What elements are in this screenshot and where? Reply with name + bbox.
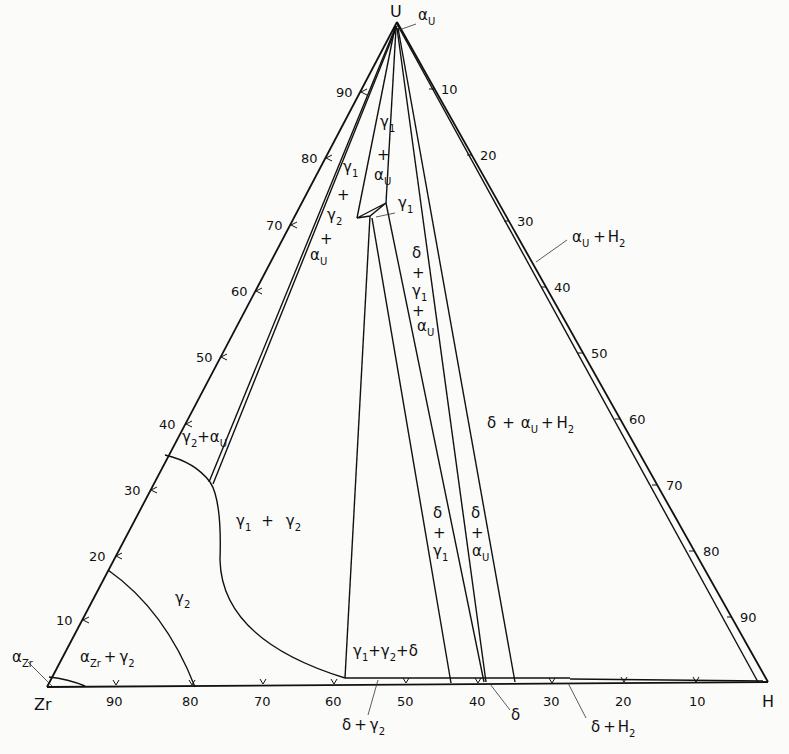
svg-text:αZr: αZr: [12, 648, 34, 669]
ternary-phase-diagram: U Zr H 10 20 30 40 50 60 70 80 90 10 20 …: [0, 0, 789, 754]
svg-text:40: 40: [159, 417, 176, 432]
region-label-gamma2: γ2: [175, 589, 190, 610]
svg-text:αU+H2: αU+H2: [572, 228, 625, 249]
svg-text:40: 40: [554, 280, 571, 295]
left-axis-labels: 10 20 30 40 50 60 70 80 90: [56, 85, 353, 628]
svg-text:80: 80: [182, 694, 199, 709]
svg-text:δ+γ2: δ+γ2: [342, 716, 385, 737]
svg-text:70: 70: [266, 218, 283, 233]
svg-text:αU: αU: [418, 6, 435, 27]
region-label-delta-gamma2: δ+γ2: [342, 716, 385, 737]
region-label-gamma1-gamma2-delta: γ1+γ2+δ: [353, 642, 418, 663]
svg-text:10: 10: [56, 613, 73, 628]
svg-text:70: 70: [254, 694, 271, 709]
svg-text:90: 90: [336, 85, 353, 100]
region-label-delta-h2: δ+H2: [591, 718, 635, 739]
svg-text:αU: αU: [472, 542, 489, 563]
svg-text:50: 50: [591, 346, 608, 361]
svg-text:90: 90: [740, 610, 757, 625]
svg-text:10: 10: [689, 694, 706, 709]
svg-text:40: 40: [469, 694, 486, 709]
svg-text:+: +: [320, 230, 333, 248]
phase-boundaries: [49, 26, 768, 687]
corner-label-zr: Zr: [34, 695, 52, 714]
svg-text:γ2: γ2: [327, 206, 342, 227]
region-label-delta-alphau-h2: δ+αU+H2: [487, 414, 574, 435]
svg-text:80: 80: [703, 544, 720, 559]
triangle-frame: [47, 22, 768, 687]
svg-text:+: +: [412, 264, 425, 282]
region-label-delta-gamma1-alphau: δ + γ1 + αU: [412, 244, 434, 338]
svg-text:70: 70: [666, 478, 683, 493]
svg-text:60: 60: [629, 412, 646, 427]
svg-text:90: 90: [106, 694, 123, 709]
svg-text:20: 20: [480, 148, 497, 163]
region-label-alphau-h2: αU+H2: [572, 228, 625, 249]
right-axis-labels: 10 20 30 40 50 60 70 80 90: [441, 82, 757, 625]
svg-text:δ: δ: [412, 244, 421, 262]
svg-text:+: +: [337, 186, 350, 204]
svg-text:γ1: γ1: [412, 282, 427, 303]
region-label-alpha-u-top: αU: [418, 6, 435, 27]
svg-text:30: 30: [124, 483, 141, 498]
svg-text:20: 20: [89, 549, 106, 564]
svg-text:30: 30: [517, 214, 534, 229]
svg-text:γ2: γ2: [175, 589, 190, 610]
svg-text:αZr+γ2: αZr+γ2: [80, 648, 135, 669]
svg-text:δ+H2: δ+H2: [591, 718, 635, 739]
region-label-delta-gamma1: δ + γ1: [433, 504, 448, 563]
svg-text:γ1+γ2+δ: γ1+γ2+δ: [353, 642, 418, 663]
region-label-gamma1-alphau: γ1 + αU: [374, 113, 395, 187]
svg-text:20: 20: [615, 694, 632, 709]
svg-text:αU: αU: [417, 317, 434, 338]
svg-text:80: 80: [301, 151, 318, 166]
svg-text:50: 50: [397, 694, 414, 709]
svg-text:60: 60: [231, 284, 248, 299]
region-label-delta-alphau: δ + αU: [471, 504, 489, 563]
region-label-alphazr-gamma2: αZr+γ2: [80, 648, 135, 669]
svg-text:αU: αU: [310, 246, 327, 267]
svg-text:30: 30: [543, 694, 560, 709]
svg-text:δ+αU+H2: δ+αU+H2: [487, 414, 574, 435]
svg-text:γ1: γ1: [380, 113, 395, 134]
svg-text:δ: δ: [433, 504, 442, 522]
region-label-alpha-zr: αZr: [12, 648, 34, 669]
corner-label-h: H: [762, 692, 774, 711]
svg-text:γ1: γ1: [343, 158, 358, 179]
svg-text:δ: δ: [471, 504, 480, 522]
corner-label-u: U: [390, 2, 402, 21]
svg-text:+: +: [377, 146, 390, 164]
svg-text:γ1: γ1: [433, 542, 448, 563]
region-label-gamma1-gamma2: γ1+γ2: [236, 512, 301, 533]
svg-text:γ2+αU: γ2+αU: [182, 428, 227, 449]
region-label-gamma1: γ1: [398, 194, 413, 215]
bottom-axis-labels: 90 80 70 60 50 40 30 20 10: [106, 694, 706, 709]
svg-text:αU: αU: [374, 166, 391, 187]
svg-text:γ1+γ2: γ1+γ2: [236, 512, 301, 533]
svg-text:10: 10: [441, 82, 458, 97]
svg-text:δ: δ: [511, 706, 520, 724]
region-label-gamma2-alphau: γ2+αU: [182, 428, 227, 449]
svg-text:γ1: γ1: [398, 194, 413, 215]
region-label-delta: δ: [511, 706, 520, 724]
svg-text:+: +: [433, 524, 446, 542]
svg-text:60: 60: [325, 694, 342, 709]
svg-text:50: 50: [196, 350, 213, 365]
svg-text:+: +: [471, 524, 484, 542]
